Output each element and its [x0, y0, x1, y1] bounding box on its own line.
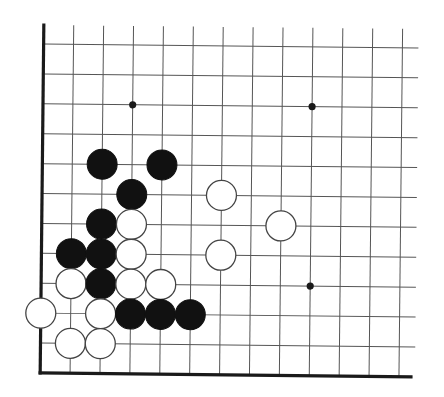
black-stone	[147, 150, 177, 180]
white-stone	[116, 269, 146, 299]
white-stone	[85, 299, 115, 329]
black-stone	[175, 300, 205, 330]
grid-line-vertical	[369, 28, 373, 376]
white-stone	[56, 268, 86, 298]
black-stone	[56, 238, 86, 268]
grid-line-vertical	[70, 25, 74, 373]
black-stone	[117, 179, 147, 209]
white-stone	[206, 180, 236, 210]
white-stone	[206, 240, 236, 270]
grid-line-horizontal	[43, 104, 418, 108]
black-stone	[87, 149, 117, 179]
grid-line-vertical	[249, 27, 253, 375]
white-stone	[116, 239, 146, 269]
white-stone	[26, 298, 56, 328]
grid-line-horizontal	[43, 134, 418, 138]
black-stone	[86, 209, 116, 239]
white-stone	[266, 211, 296, 241]
grid-line-vertical	[339, 28, 343, 376]
star-point	[307, 282, 314, 289]
star-point	[129, 101, 136, 108]
grid-line-horizontal	[43, 74, 418, 78]
go-board-diagram	[0, 0, 444, 397]
white-stone	[85, 328, 115, 358]
grid-line-horizontal	[44, 44, 419, 48]
white-stone	[116, 209, 146, 239]
black-stone	[86, 239, 116, 269]
white-stone	[146, 269, 176, 299]
go-board	[0, 0, 444, 397]
black-stone	[145, 299, 175, 329]
board-edge-bottom	[40, 373, 411, 377]
black-stone	[86, 269, 116, 299]
black-stone	[115, 299, 145, 329]
grid-line-vertical	[399, 29, 403, 377]
star-point	[308, 103, 315, 110]
grid-line-vertical	[309, 28, 313, 376]
grid-line-vertical	[279, 28, 283, 376]
white-stone	[55, 328, 85, 358]
